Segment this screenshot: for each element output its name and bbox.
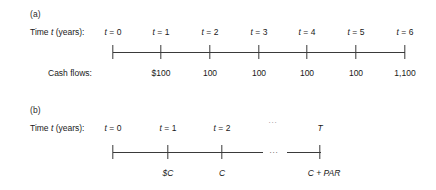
- panel-a-tick-1-suffix: = 1: [155, 27, 169, 37]
- panel-a-cash-flow-2: 100: [203, 68, 217, 78]
- panel-b-tick-label-T: T: [317, 123, 322, 133]
- panel-b-tick-label-2: t = 2: [214, 123, 231, 133]
- panel-a-tick-4-suffix: = 4: [301, 27, 315, 37]
- panel-b-tick-label-1: t = 1: [160, 123, 177, 133]
- panel-b-ellipsis-above: ...: [268, 116, 277, 125]
- panel-b-tick-label-0: t = 0: [105, 123, 122, 133]
- panel-a-axis-tick-5: [355, 45, 356, 59]
- panel-a-tick-label-6: t = 6: [397, 27, 414, 37]
- cash-flow-timeline-figure: (a) Time t (years): t = 0 t = 1 t = 2 t …: [0, 0, 436, 190]
- panel-a-cash-flow-1: $100: [152, 68, 171, 78]
- panel-a-tick-label-5: t = 5: [348, 27, 365, 37]
- panel-b-tick-1-suffix: = 1: [162, 123, 176, 133]
- panel-a-time-row-prefix: Time: [30, 27, 51, 37]
- panel-b-time-row-label: Time t (years):: [30, 123, 84, 133]
- panel-b-time-row-prefix: Time: [30, 123, 51, 133]
- panel-a-tick-2-suffix: = 2: [204, 27, 218, 37]
- panel-a-axis-tick-0: [112, 45, 113, 59]
- panel-a-tick-label-1: t = 1: [153, 27, 170, 37]
- panel-b-tick-2-suffix: = 2: [216, 123, 230, 133]
- panel-b-tag: (b): [30, 105, 41, 115]
- panel-a-cash-flow-4: 100: [300, 68, 314, 78]
- panel-a-axis-tick-6: [404, 45, 405, 59]
- panel-a-tick-label-3: t = 3: [251, 27, 268, 37]
- panel-a-tick-5-suffix: = 5: [350, 27, 364, 37]
- panel-b-axis-line-left: [113, 152, 263, 153]
- panel-a-axis-tick-4: [306, 45, 307, 59]
- panel-a-time-row-label: Time t (years):: [30, 27, 84, 37]
- panel-a-tick-label-4: t = 4: [299, 27, 316, 37]
- panel-a-axis-tick-3: [258, 45, 259, 59]
- panel-a-tick-label-0: t = 0: [105, 27, 122, 37]
- panel-b-cash-flow-1: $C: [163, 168, 174, 178]
- panel-b-axis-tick-1: [167, 145, 168, 159]
- panel-b-tick-0-suffix: = 0: [107, 123, 121, 133]
- panel-a-axis-tick-2: [209, 45, 210, 59]
- panel-b-ellipsis-inline: ...: [269, 146, 278, 155]
- panel-b-axis-tick-T: [319, 145, 320, 159]
- panel-a-axis-tick-1: [160, 45, 161, 59]
- panel-a-cash-flow-3: 100: [252, 68, 266, 78]
- panel-a-cash-flow-5: 100: [349, 68, 363, 78]
- panel-a-tag: (a): [30, 9, 41, 19]
- panel-b-time-row-suffix: (years):: [53, 123, 84, 133]
- panel-b-axis-tick-0: [112, 145, 113, 159]
- panel-b-cash-flow-2: C: [219, 168, 225, 178]
- panel-b-cash-flow-T: C + PAR: [308, 168, 341, 178]
- panel-a-tick-0-suffix: = 0: [107, 27, 121, 37]
- panel-a-cash-row-label: Cash flows:: [48, 68, 92, 78]
- panel-b-axis-tick-2: [221, 145, 222, 159]
- panel-a-tick-label-2: t = 2: [202, 27, 219, 37]
- panel-a-time-row-suffix: (years):: [53, 27, 84, 37]
- panel-a-tick-6-suffix: = 6: [399, 27, 413, 37]
- panel-b-tick-T-italic: T: [317, 123, 322, 133]
- panel-b-axis-line-right: [287, 152, 321, 153]
- panel-a-tick-3-suffix: = 3: [253, 27, 267, 37]
- panel-a-cash-flow-6: 1,100: [394, 68, 415, 78]
